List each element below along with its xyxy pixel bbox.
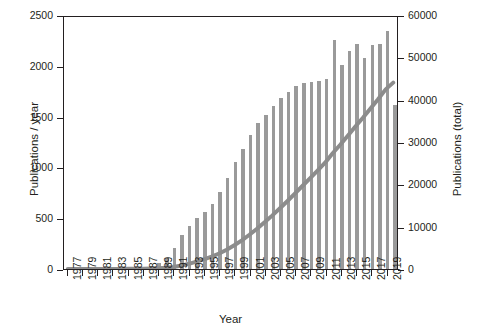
y-axis-right-tick [398, 16, 404, 17]
y-axis-left-tick [57, 118, 63, 119]
y-axis-left-tick-label: 2500 [13, 9, 53, 21]
y-axis-right-tick [398, 185, 404, 186]
x-axis-tick [128, 270, 129, 276]
x-axis-tick-label: 1985 [132, 257, 144, 280]
x-axis-tick [387, 270, 388, 276]
y-axis-right-tick-label: 50000 [408, 51, 437, 63]
x-axis-tick [189, 270, 190, 276]
y-axis-right-tick-label: 10000 [408, 221, 437, 233]
x-axis-tick-label: 1983 [116, 257, 128, 280]
x-axis-tick-label: 2003 [269, 257, 281, 280]
x-axis-tick [250, 270, 251, 276]
plot-area [63, 16, 398, 270]
x-axis-tick-label: 2013 [345, 257, 357, 280]
y-axis-left-tick [57, 67, 63, 68]
x-axis-tick [265, 270, 266, 276]
x-axis-tick-label: 1991 [177, 257, 189, 280]
x-axis-tick [173, 270, 174, 276]
publications-per-year-chart: 05001000150020002500 0100002000030000400… [0, 0, 479, 332]
cumulative-line-layer [64, 17, 397, 269]
y-axis-right-title: Publications (total) [451, 59, 463, 239]
x-axis-tick [219, 270, 220, 276]
x-axis-tick [356, 270, 357, 276]
cumulative-line-path [68, 83, 393, 269]
x-axis-tick-label: 1993 [193, 257, 205, 280]
x-axis-tick [112, 270, 113, 276]
y-axis-right-tick-label: 0 [408, 263, 414, 275]
x-axis-tick [97, 270, 98, 276]
y-axis-left-title: Publications / year [28, 59, 40, 239]
x-axis-tick [234, 270, 235, 276]
y-axis-right-tick-label: 40000 [408, 94, 437, 106]
y-axis-left-tick [57, 168, 63, 169]
x-axis-tick [67, 270, 68, 276]
y-axis-right-tick [398, 143, 404, 144]
y-axis-right-tick-label: 30000 [408, 136, 437, 148]
x-axis-tick-label: 1999 [238, 257, 250, 280]
x-axis-title: Year [63, 313, 398, 325]
x-axis-tick [204, 270, 205, 276]
x-axis-tick-label: 2005 [284, 257, 296, 280]
x-axis-tick-label: 1981 [101, 257, 113, 280]
x-axis-tick [371, 270, 372, 276]
x-axis-tick-label: 1987 [147, 257, 159, 280]
x-axis-tick-label: 1979 [86, 257, 98, 280]
y-axis-right-tick [398, 58, 404, 59]
x-axis-tick [158, 270, 159, 276]
x-axis-tick-label: 2015 [360, 257, 372, 280]
x-axis-tick [310, 270, 311, 276]
y-axis-left-tick [57, 270, 63, 271]
x-axis-tick-label: 1989 [162, 257, 174, 280]
x-axis-tick [341, 270, 342, 276]
x-axis-tick-label: 1995 [208, 257, 220, 280]
x-axis-tick [280, 270, 281, 276]
y-axis-right-tick [398, 228, 404, 229]
x-axis-tick-label: 2009 [314, 257, 326, 280]
y-axis-left-tick [57, 219, 63, 220]
x-axis-tick [326, 270, 327, 276]
x-axis-tick-label: 2017 [375, 257, 387, 280]
x-axis-tick-label: 2001 [254, 257, 266, 280]
y-axis-right-tick-label: 60000 [408, 9, 437, 21]
y-axis-right-tick-label: 20000 [408, 178, 437, 190]
y-axis-left-tick-label: 0 [13, 263, 53, 275]
y-axis-right-tick [398, 101, 404, 102]
x-axis-tick-label: 1977 [71, 257, 83, 280]
x-axis-tick-label: 2007 [299, 257, 311, 280]
x-axis-tick-label: 2011 [330, 257, 342, 280]
y-axis-left-tick [57, 16, 63, 17]
x-axis-tick-label: 2019 [391, 257, 403, 280]
x-axis-tick [82, 270, 83, 276]
x-axis-tick-label: 1997 [223, 257, 235, 280]
x-axis-tick [295, 270, 296, 276]
x-axis-tick [143, 270, 144, 276]
